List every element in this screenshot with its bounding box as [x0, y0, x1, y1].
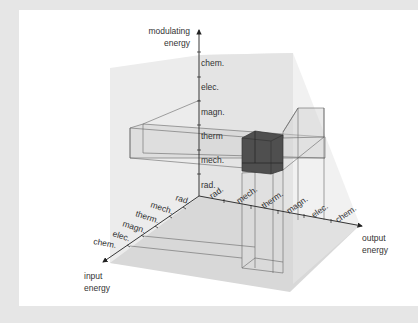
- modulating-axis-title-line2: energy: [164, 38, 191, 48]
- vertical-tick-magn: magn.: [201, 107, 225, 117]
- energy-cube-diagram: modulating energy output energy input en…: [0, 0, 418, 323]
- modulating-axis-title-line1: modulating: [148, 26, 190, 36]
- vertical-tick-elec: elec.: [201, 82, 219, 92]
- output-axis-title-line1: output: [362, 233, 386, 243]
- input-axis-title-line1: input: [84, 271, 103, 281]
- vertical-tick-therm: therm: [201, 131, 223, 141]
- vertical-tick-chem: chem.: [201, 58, 224, 68]
- highlight-cube: [242, 131, 283, 174]
- output-axis-title-line2: energy: [362, 245, 389, 255]
- background-cube: [110, 53, 360, 292]
- input-axis-title-line2: energy: [84, 283, 111, 293]
- vertical-tick-mech: mech.: [201, 155, 224, 165]
